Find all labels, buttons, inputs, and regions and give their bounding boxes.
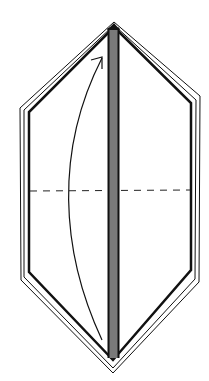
center-strip: [107, 23, 120, 358]
origami-diagram: [0, 0, 209, 381]
center-strip-fill: [108, 27, 119, 358]
